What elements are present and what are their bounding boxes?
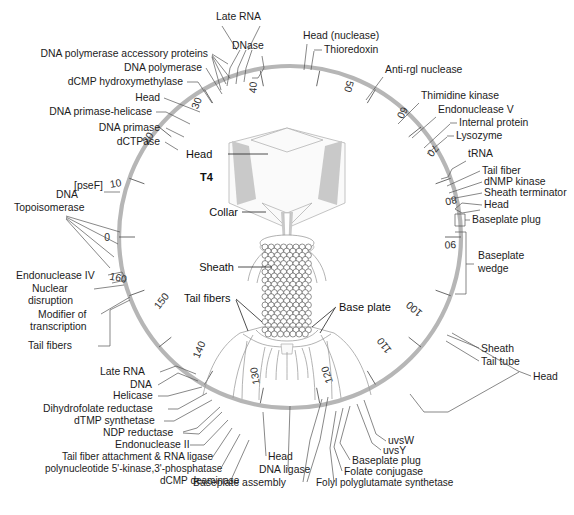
label-dna-primase-helicase: DNA primase-helicase	[49, 106, 152, 117]
label-lysozyme: Lysozyme	[456, 130, 503, 141]
label-helicase: Helicase	[113, 390, 153, 401]
label-dnmp-kinase: dNMP kinase	[484, 176, 546, 187]
label-tail-tube: Tail tube	[481, 356, 520, 367]
label-dctpase: dCTPase	[117, 136, 161, 147]
tick-number-120: 120	[319, 365, 335, 385]
label-polynucleotide-kinase-phosphatase: polynucleotide 5'-kinase,3'-phosphatase	[45, 463, 223, 474]
phage-base-plate-label: Base plate	[339, 301, 391, 313]
label-trna: tRNA	[468, 148, 493, 159]
label-baseplate-wedge2: wedge	[477, 263, 509, 274]
label-baseplate-wedge: Baseplate	[478, 250, 524, 261]
label-dcmp-hydroxymethylase: dCMP hydroxymethylase	[68, 76, 184, 87]
labels-bottom-right: uvsW uvsY Baseplate plug Folate conjugas…	[316, 400, 454, 488]
tick-number-80: 80	[444, 194, 458, 207]
label-folyl-polyglutamate-synthetase: Folyl polyglutamate synthetase	[316, 477, 454, 488]
labels-right: Anti-rgl nuclease Thimidine kinase Endon…	[366, 64, 567, 412]
tick-number-60: 60	[395, 105, 410, 121]
phage-sheath-label: Sheath	[199, 261, 234, 273]
label-anti-rgl-nuclease: Anti-rgl nuclease	[385, 64, 463, 75]
label-late-rna-top: Late RNA	[216, 11, 261, 22]
label-dnase: DNase	[232, 40, 264, 51]
tick-number-150: 150	[152, 291, 171, 312]
label-endonuclease-ii: Endonuclease II	[115, 439, 190, 450]
label-dtmp-synthetase: dTMP synthetase	[74, 415, 155, 426]
tick-number-10: 10	[109, 177, 123, 190]
label-baseplate-plug-bottom: Baseplate plug	[352, 455, 421, 466]
tick-number-110: 110	[375, 335, 394, 355]
label-head-bottom: Head	[268, 451, 293, 462]
sheath-lattice	[262, 244, 311, 337]
label-endonuclease-v: Endonuclease V	[438, 104, 514, 115]
label-baseplate-plug-right: Baseplate plug	[472, 214, 541, 225]
label-dna-polymerase: DNA polymerase	[124, 62, 202, 73]
label-thioredoxin: Thioredoxin	[324, 44, 379, 55]
label-endonuclease-iv: Endonuclease IV	[16, 270, 95, 281]
label-topoisomerase: Topoisomerase	[14, 202, 85, 213]
label-tail-fiber-right: Tail fiber	[482, 165, 521, 176]
tick-number-100: 100	[404, 299, 425, 319]
label-head-far-right: Head	[533, 371, 558, 382]
tick-number-140: 140	[191, 339, 208, 359]
tick-number-50: 50	[342, 79, 356, 93]
t4-genetic-map-figure: 0 10 20 30 40 50 60 70 80 90 100 110 120…	[0, 0, 574, 515]
label-disruption: disruption	[28, 295, 73, 306]
phage-collar-label: Collar	[209, 206, 238, 218]
label-late-rna-bottom: Late RNA	[100, 366, 145, 377]
map-svg: 0 10 20 30 40 50 60 70 80 90 100 110 120…	[0, 0, 574, 515]
tick-number-40: 40	[247, 81, 259, 94]
label-tail-fiber-attachment-rna-ligase: Tail fiber attachment & RNA ligase	[62, 451, 214, 462]
label-sheath-terminator: Sheath terminator	[484, 187, 567, 198]
label-dna-pol-accessory: DNA polymerase accessory proteins	[41, 48, 208, 59]
label-psef: [pseF]	[74, 180, 103, 191]
label-folate-conjugase: Folate conjugase	[344, 466, 423, 477]
label-dihydrofolate-reductase: Dihydrofolate reductase	[43, 403, 153, 414]
label-nuclear: Nuclear	[32, 283, 68, 294]
label-modifier-of: Modifier of	[38, 309, 87, 320]
labels-bottom-left: Late RNA DNA Helicase Dihydrofolate redu…	[43, 366, 249, 486]
label-tail-fibers-left: Tail fibers	[28, 340, 72, 351]
label-transcription: transcription	[30, 321, 87, 332]
label-head-nuclease: Head (nuclease)	[303, 30, 379, 41]
label-head-topleft: Head	[135, 92, 160, 103]
label-thimidine-kinase: Thimidine kinase	[421, 90, 499, 101]
phage-tail-fibers-label: Tail fibers	[184, 292, 231, 304]
label-dna-primase: DNA primase	[99, 122, 160, 133]
label-ndp-reductase: NDP reductase	[103, 427, 173, 438]
t4-center-label: T4	[200, 171, 214, 183]
tick-number-90: 90	[444, 239, 456, 250]
labels-left: [pseF] DNA Topoisomerase Endonuclease IV…	[14, 180, 130, 351]
label-baseplate-assembly: Baseplate assembly	[193, 477, 287, 488]
label-internal-protein: Internal protein	[459, 117, 529, 128]
label-dna-ligase: DNA ligase	[259, 464, 311, 475]
label-dna-bottomleft: DNA	[130, 379, 152, 390]
phage-head-label: Head	[186, 148, 212, 160]
label-head-right: Head	[484, 199, 509, 210]
label-dna-left: DNA	[56, 189, 78, 200]
